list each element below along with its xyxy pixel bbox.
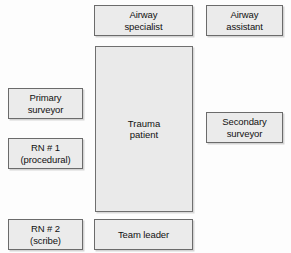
rn-1-procedural-box: RN # 1 (procedural) [8, 138, 83, 169]
airway-assistant-box: Airway assistant [206, 5, 283, 36]
primary-surveyor-label: Primary surveyor [28, 92, 64, 115]
rn-2-scribe-label: RN # 2 (scribe) [30, 223, 61, 246]
airway-specialist-label: Airway specialist [124, 9, 162, 32]
airway-specialist-box: Airway specialist [94, 5, 193, 36]
team-leader-label: Team leader [118, 229, 169, 241]
rn-1-procedural-label: RN # 1 (procedural) [20, 142, 70, 165]
secondary-surveyor-label: Secondary surveyor [222, 116, 267, 139]
rn-2-scribe-box: RN # 2 (scribe) [8, 219, 83, 250]
secondary-surveyor-box: Secondary surveyor [206, 112, 283, 143]
trauma-patient-label: Trauma patient [128, 118, 160, 141]
primary-surveyor-box: Primary surveyor [8, 88, 83, 119]
airway-assistant-label: Airway assistant [226, 9, 263, 32]
trauma-patient-box: Trauma patient [95, 46, 193, 212]
trauma-team-layout-diagram: Trauma patient Airway specialist Airway … [0, 0, 291, 253]
team-leader-box: Team leader [94, 219, 193, 250]
